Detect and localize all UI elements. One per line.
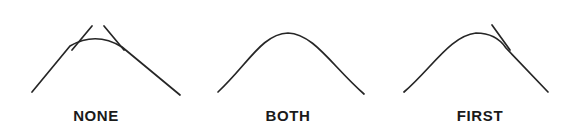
- panel-both: BOTH: [192, 0, 384, 139]
- panel-label-both: BOTH: [192, 106, 384, 126]
- overshoot-left-none: [72, 26, 92, 50]
- panel-label-none: NONE: [0, 106, 192, 126]
- curve-arc-none: [32, 39, 180, 95]
- panel-label-first: FIRST: [384, 106, 576, 126]
- curve-arc-both: [218, 33, 364, 94]
- panel-first: FIRST: [384, 0, 576, 139]
- curve-first: [384, 0, 576, 105]
- overshoot-right-none: [104, 26, 124, 50]
- curve-none: [0, 0, 192, 105]
- curve-arc-first: [404, 33, 548, 92]
- blend-mode-figure: NONE BOTH FIRST: [0, 0, 576, 139]
- panel-none: NONE: [0, 0, 192, 139]
- curve-both: [192, 0, 384, 105]
